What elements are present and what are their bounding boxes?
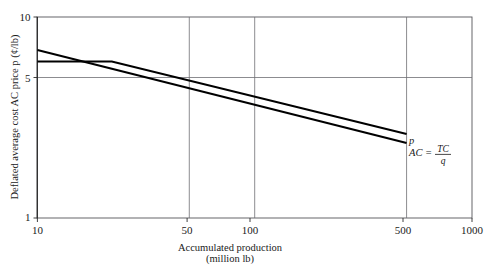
xtick-label-500: 500 bbox=[395, 224, 412, 236]
xtick-label-10: 10 bbox=[32, 224, 44, 236]
x-axis-title: Accumulated production bbox=[178, 242, 283, 253]
series-label-ac-denominator: q bbox=[441, 156, 446, 166]
series-label-p: p bbox=[408, 135, 414, 146]
ytick-label-5: 5 bbox=[25, 72, 31, 84]
y-axis-title: Deflated average cost AC price p (¢/lb) bbox=[9, 34, 21, 200]
xtick-label-1000: 1000 bbox=[461, 224, 484, 236]
ytick-label-1: 1 bbox=[25, 211, 31, 223]
xtick-label-50: 50 bbox=[182, 224, 194, 236]
chart-svg: 10 5 1 10 50 100 500 1000 Accumulated pr… bbox=[0, 0, 492, 268]
series-label-ac: AC = bbox=[408, 147, 432, 158]
xtick-label-100: 100 bbox=[242, 224, 259, 236]
ytick-label-10: 10 bbox=[20, 11, 32, 23]
series-label-ac-numerator: TC bbox=[437, 144, 449, 154]
x-axis-ticks bbox=[37, 218, 472, 222]
x-axis-title-units: (million lb) bbox=[206, 253, 255, 265]
experience-curve-chart: 10 5 1 10 50 100 500 1000 Accumulated pr… bbox=[0, 0, 492, 268]
